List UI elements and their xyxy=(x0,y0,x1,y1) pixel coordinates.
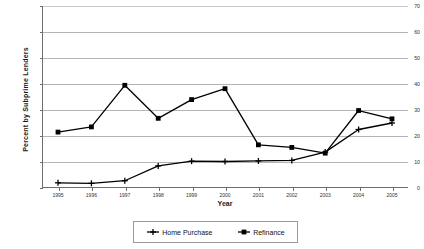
x-tick-mark xyxy=(360,188,361,191)
series-layer xyxy=(42,6,408,188)
x-tick-label: 1996 xyxy=(86,192,97,198)
data-point-plus xyxy=(155,163,161,169)
x-tick-label: 2004 xyxy=(353,192,364,198)
y-tick-label: 40 xyxy=(414,81,420,87)
data-point-square xyxy=(189,97,194,102)
y-tick-label: 0 xyxy=(417,185,420,191)
x-tick-label: 2001 xyxy=(253,192,264,198)
data-point-plus xyxy=(122,178,128,184)
y-tick-label: 10 xyxy=(414,159,420,165)
data-point-plus xyxy=(255,158,261,164)
data-point-square xyxy=(289,145,294,150)
x-tick-mark xyxy=(159,188,160,191)
x-tick-mark xyxy=(92,188,93,191)
legend-label: Home Purchase xyxy=(162,229,212,236)
x-tick-mark xyxy=(326,188,327,191)
legend-marker-plus-icon xyxy=(146,227,160,237)
data-point-plus xyxy=(88,180,94,186)
x-tick-label: 2002 xyxy=(286,192,297,198)
x-tick-mark xyxy=(293,188,294,191)
data-point-plus xyxy=(55,180,61,186)
x-tick-mark xyxy=(259,188,260,191)
x-tick-label: 1997 xyxy=(119,192,130,198)
data-point-square xyxy=(323,151,328,156)
x-axis-title: Year xyxy=(42,200,408,207)
legend-item-home-purchase[interactable]: Home Purchase xyxy=(146,227,212,237)
y-tick-mark xyxy=(40,188,43,189)
x-tick-label: 2003 xyxy=(320,192,331,198)
legend-label: Refinance xyxy=(253,229,285,236)
subprime-lending-line-chart: Percent by Subprime Lenders Year Home Pu… xyxy=(0,0,424,249)
x-tick-mark xyxy=(193,188,194,191)
data-point-square xyxy=(390,116,395,121)
data-point-square xyxy=(156,116,161,121)
legend-item-refinance[interactable]: Refinance xyxy=(237,227,285,237)
data-point-plus xyxy=(289,157,295,163)
data-point-square xyxy=(356,108,361,113)
data-point-plus xyxy=(150,229,156,235)
data-point-plus xyxy=(189,158,195,164)
data-point-square xyxy=(89,125,94,130)
data-point-square xyxy=(242,230,247,235)
x-tick-label: 2005 xyxy=(386,192,397,198)
x-tick-mark xyxy=(226,188,227,191)
y-tick-label: 30 xyxy=(414,107,420,113)
y-axis-tick-labels xyxy=(0,0,42,182)
y-tick-label: 20 xyxy=(414,133,420,139)
legend-marker-square-icon xyxy=(237,227,251,237)
y-tick-label: 50 xyxy=(414,55,420,61)
chart-legend: Home PurchaseRefinance xyxy=(133,221,298,243)
series-line-refinance xyxy=(58,85,392,153)
x-tick-label: 2000 xyxy=(219,192,230,198)
data-point-square xyxy=(56,130,61,135)
data-point-square xyxy=(256,142,261,147)
data-point-square xyxy=(122,83,127,88)
y-tick-label: 70 xyxy=(414,3,420,9)
x-tick-label: 1998 xyxy=(153,192,164,198)
x-tick-label: 1999 xyxy=(186,192,197,198)
x-tick-label: 1995 xyxy=(52,192,63,198)
y-tick-label: 60 xyxy=(414,29,420,35)
x-tick-mark xyxy=(126,188,127,191)
data-point-plus xyxy=(222,158,228,164)
x-tick-mark xyxy=(59,188,60,191)
data-point-square xyxy=(223,86,228,91)
x-tick-mark xyxy=(393,188,394,191)
